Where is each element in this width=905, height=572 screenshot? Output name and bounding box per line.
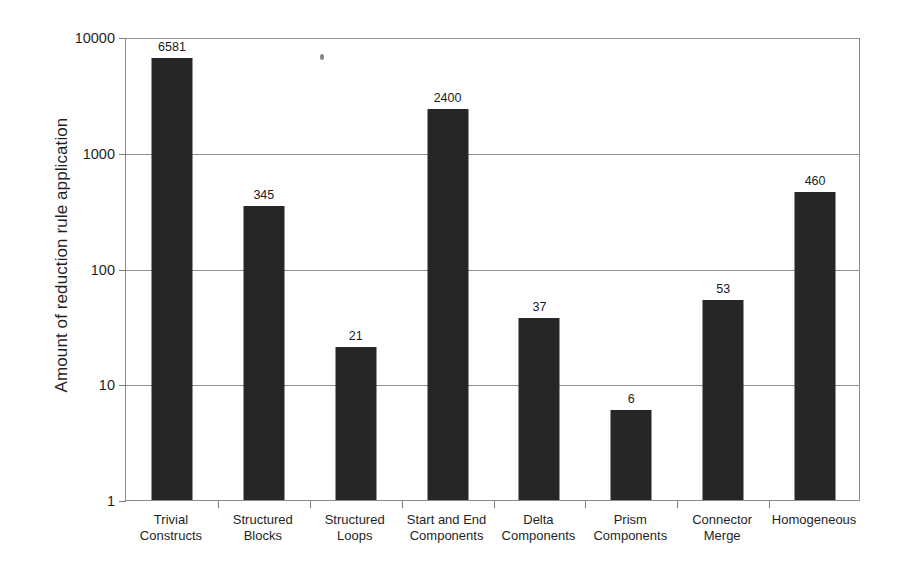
y-axis-tick-label: 1 xyxy=(0,493,115,509)
bar xyxy=(243,206,284,500)
x-axis-tick-mark xyxy=(310,501,311,508)
y-axis-tick-mark xyxy=(119,385,126,386)
x-axis-category-label: TrivialConstructs xyxy=(125,512,217,544)
bar-value-label: 2400 xyxy=(434,91,462,105)
y-axis-tick-mark xyxy=(119,154,126,155)
x-axis-tick-mark xyxy=(677,501,678,508)
bar xyxy=(519,318,560,500)
x-axis-category-label: PrismComponents xyxy=(584,512,676,544)
bar-value-label: 345 xyxy=(253,188,274,202)
bar xyxy=(795,192,836,500)
bar-value-label: 53 xyxy=(716,282,730,296)
bar-group: 6 xyxy=(585,38,677,500)
bar xyxy=(611,410,652,500)
bar xyxy=(151,58,192,500)
y-axis-title: Amount of reduction rule application xyxy=(52,45,72,465)
x-axis-tick-mark xyxy=(769,501,770,508)
bar-group: 6581 xyxy=(126,38,218,500)
x-axis-category-label: DeltaComponents xyxy=(493,512,585,544)
x-axis-category-label-line: Delta xyxy=(493,512,585,528)
x-axis-category-label-line: Components xyxy=(401,528,493,544)
bar-group: 345 xyxy=(218,38,310,500)
x-axis-tick-mark xyxy=(218,501,219,508)
bar xyxy=(335,347,376,500)
bar-value-label: 21 xyxy=(349,329,363,343)
bar xyxy=(427,109,468,500)
bar-group: 53 xyxy=(677,38,769,500)
bar-chart: Amount of reduction rule application 100… xyxy=(0,0,905,572)
x-axis-category-label-line: Components xyxy=(584,528,676,544)
x-axis-category-label-line: Structured xyxy=(217,512,309,528)
bar-group: 460 xyxy=(769,38,861,500)
x-axis-category-label-line: Constructs xyxy=(125,528,217,544)
plot-area: 658134521240037653460 xyxy=(125,38,860,501)
x-axis-category-label-line: Prism xyxy=(584,512,676,528)
x-axis-category-label-line: Trivial xyxy=(125,512,217,528)
y-axis-tick-mark xyxy=(119,38,126,39)
y-axis-tick-label: 1000 xyxy=(0,146,115,162)
x-axis-category-label: Homogeneous xyxy=(768,512,860,528)
x-axis-category-label: StructuredBlocks xyxy=(217,512,309,544)
y-axis-tick-mark xyxy=(119,501,126,502)
x-axis-category-label-line: Components xyxy=(493,528,585,544)
x-axis-category-label-line: Homogeneous xyxy=(768,512,860,528)
x-axis-category-label-line: Merge xyxy=(676,528,768,544)
y-axis-tick-label: 10000 xyxy=(0,30,115,46)
x-axis-category-label-line: Start and End xyxy=(401,512,493,528)
x-axis-category-label: Start and EndComponents xyxy=(401,512,493,544)
bar-group: 2400 xyxy=(402,38,494,500)
x-axis-tick-mark xyxy=(494,501,495,508)
x-axis-category-label: StructuredLoops xyxy=(309,512,401,544)
bar-group: 21 xyxy=(310,38,402,500)
bar-value-label: 37 xyxy=(532,300,546,314)
y-axis-tick-label: 10 xyxy=(0,377,115,393)
x-axis-category-label-line: Blocks xyxy=(217,528,309,544)
bar-value-label: 6581 xyxy=(158,40,186,54)
x-axis-category-label: ConnectorMerge xyxy=(676,512,768,544)
scan-speck-artifact xyxy=(320,54,324,60)
bar xyxy=(703,300,744,500)
bar-value-label: 6 xyxy=(628,392,635,406)
x-axis-category-label-line: Structured xyxy=(309,512,401,528)
y-axis-tick-label: 100 xyxy=(0,262,115,278)
x-axis-category-label-line: Loops xyxy=(309,528,401,544)
bar-value-label: 460 xyxy=(805,174,826,188)
x-axis-category-label-line: Connector xyxy=(676,512,768,528)
x-axis-tick-mark xyxy=(402,501,403,508)
y-axis-tick-mark xyxy=(119,270,126,271)
bar-group: 37 xyxy=(494,38,586,500)
x-axis-tick-mark xyxy=(585,501,586,508)
